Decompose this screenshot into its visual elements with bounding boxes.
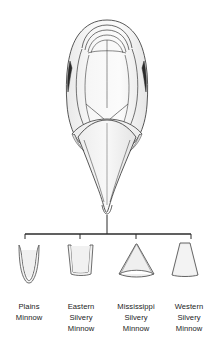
label-eastern-silvery-minnow-line3: Minnow (68, 324, 95, 333)
label-plains-minnow-line2: Minnow (16, 313, 43, 322)
label-eastern-silvery-minnow-line2: Silvery (69, 313, 92, 322)
specimen-shape-eastern-silvery-minnow[interactable] (68, 245, 93, 276)
label-eastern-silvery-minnow-line1: Eastern (68, 302, 95, 311)
label-western-silvery-minnow-line3: Minnow (176, 324, 203, 333)
straight-sided-inner-shade (71, 246, 90, 273)
label-mississippi-silvery-minnow-line3: Minnow (123, 324, 150, 333)
label-western-silvery-minnow-line2: Silvery (177, 313, 200, 322)
label-mississippi-silvery-minnow-line1: Mississippi (117, 302, 155, 311)
label-plains-minnow-line1: Plains (19, 302, 40, 311)
figure-root: Plains Minnow Eastern Silvery Minnow Mis… (0, 0, 221, 353)
label-mississippi-silvery-minnow-line2: Silvery (124, 313, 147, 322)
label-western-silvery-minnow: Western Silvery Minnow (175, 302, 204, 333)
label-western-silvery-minnow-line1: Western (175, 302, 204, 311)
label-eastern-silvery-minnow: Eastern Silvery Minnow (68, 302, 95, 333)
minnow-comparison-figure: Plains Minnow Eastern Silvery Minnow Mis… (0, 0, 221, 353)
